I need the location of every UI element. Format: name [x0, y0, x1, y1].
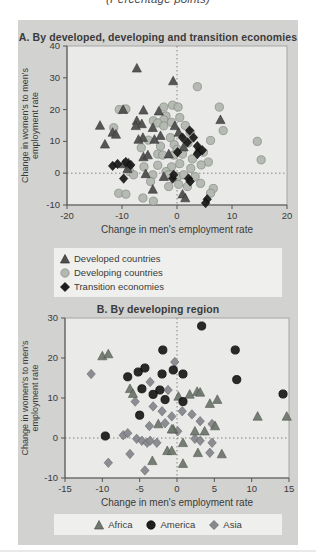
- scan-edge-shadow: [0, 550, 316, 552]
- legend-label: Developed countries: [74, 252, 161, 265]
- scatter-plot-panel-b: -100102030-15-10-5051015Change in men's …: [18, 312, 298, 518]
- svg-text:40: 40: [49, 40, 60, 51]
- svg-text:30: 30: [47, 312, 58, 323]
- legend-item-transition: Transition economies: [60, 280, 164, 293]
- svg-text:Change in women's to men's: Change in women's to men's: [20, 340, 30, 455]
- legend-item-america: America: [146, 518, 195, 531]
- svg-text:0: 0: [53, 432, 58, 443]
- svg-text:15: 15: [284, 483, 295, 494]
- svg-text:20: 20: [282, 210, 293, 221]
- svg-text:0: 0: [55, 167, 60, 178]
- legend-label: Developing countries: [74, 266, 163, 279]
- svg-text:-5: -5: [135, 483, 143, 494]
- diamond-icon: [209, 520, 219, 530]
- svg-text:-15: -15: [58, 483, 72, 494]
- legend-item-developing: Developing countries: [60, 266, 163, 279]
- legend-label: America: [160, 518, 195, 531]
- legend-panel-a: Developed countries Developing countries…: [54, 248, 282, 297]
- svg-text:10: 10: [227, 210, 238, 221]
- svg-text:30: 30: [49, 72, 60, 83]
- circle-icon: [146, 520, 156, 530]
- svg-text:10: 10: [49, 135, 60, 146]
- svg-text:-10: -10: [44, 472, 58, 483]
- svg-text:10: 10: [246, 483, 257, 494]
- svg-text:Change in men's employment rat: Change in men's employment rate: [101, 497, 253, 508]
- svg-text:Change in women's to men's: Change in women's to men's: [20, 68, 30, 183]
- svg-text:-10: -10: [95, 483, 109, 494]
- svg-text:0: 0: [174, 210, 179, 221]
- chart-panel: A. By developed, developing and transiti…: [18, 20, 298, 545]
- triangle-icon: [94, 520, 104, 530]
- legend-label: Asia: [223, 518, 241, 531]
- legend-label: Transition economies: [74, 280, 164, 293]
- svg-text:-10: -10: [115, 210, 129, 221]
- triangle-icon: [60, 254, 70, 264]
- svg-text:5: 5: [212, 483, 217, 494]
- scatter-plot-panel-a: -10010203040-20-1001020Change in men's e…: [18, 40, 298, 248]
- svg-text:20: 20: [47, 352, 58, 363]
- svg-text:Change in men's employment rat: Change in men's employment rate: [101, 224, 253, 235]
- legend-panel-b: Africa America Asia: [54, 514, 282, 535]
- svg-text:-20: -20: [60, 210, 74, 221]
- svg-text:employment rate: employment rate: [30, 92, 40, 159]
- svg-text:0: 0: [174, 483, 179, 494]
- svg-text:-10: -10: [46, 199, 60, 210]
- legend-item-africa: Africa: [94, 518, 132, 531]
- circle-icon: [60, 268, 70, 278]
- svg-text:employment rate: employment rate: [30, 364, 40, 431]
- svg-text:20: 20: [49, 104, 60, 115]
- legend-item-asia: Asia: [209, 518, 241, 531]
- diamond-icon: [60, 282, 70, 292]
- svg-text:10: 10: [47, 392, 58, 403]
- figure-caption: (Percentage points): [0, 0, 316, 5]
- legend-label: Africa: [108, 518, 132, 531]
- legend-item-developed: Developed countries: [60, 252, 161, 265]
